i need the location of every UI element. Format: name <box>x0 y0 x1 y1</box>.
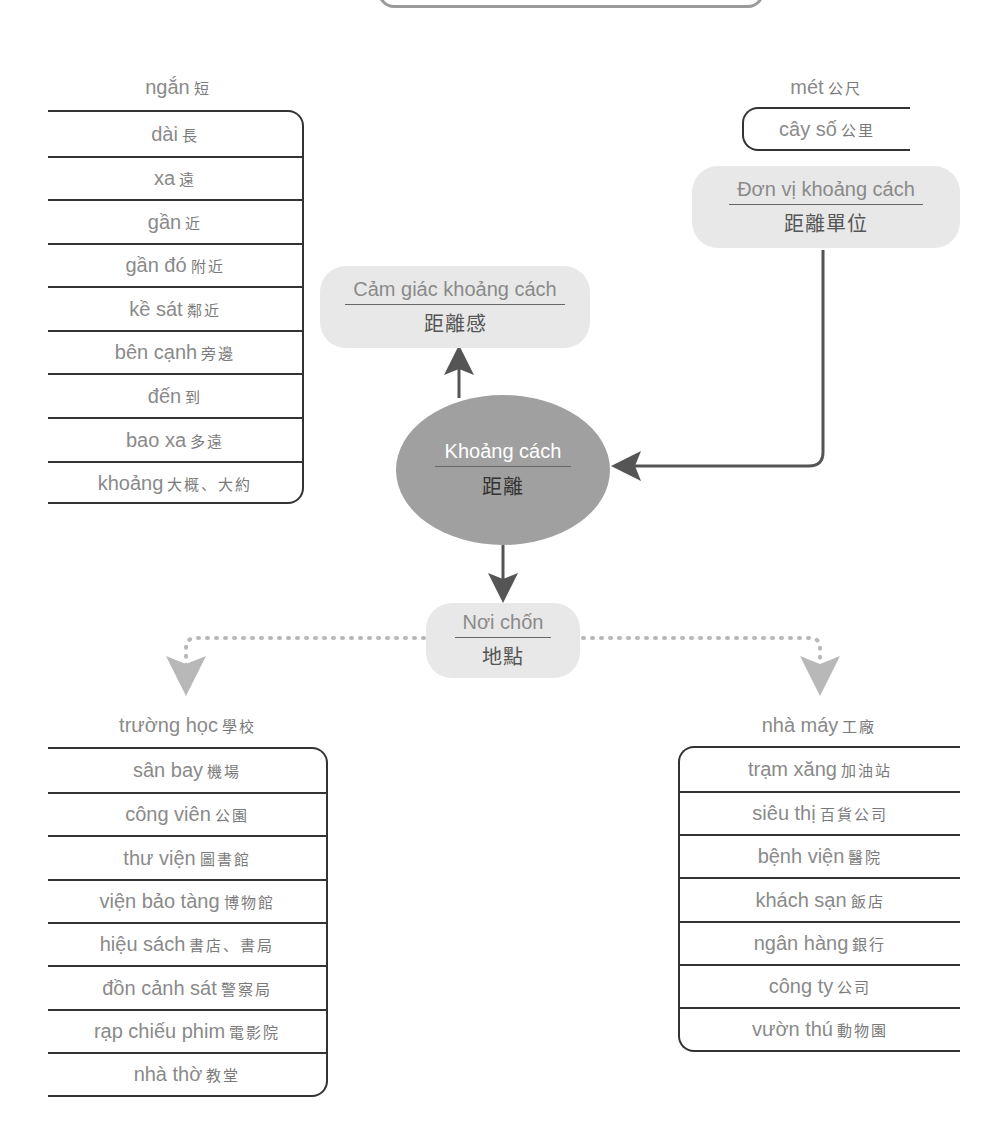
row-vi: hiệu sách <box>100 933 186 956</box>
node-vi: Cảm giác khoảng cách <box>345 278 564 305</box>
row-zh: 教堂 <box>206 1064 240 1085</box>
table-row: bệnh viện醫院 <box>680 834 960 877</box>
row-zh: 近 <box>185 212 202 233</box>
row-vi: dài <box>151 123 178 146</box>
node-vi: Nơi chốn <box>455 611 552 638</box>
header-zh: 學校 <box>222 718 256 736</box>
row-vi: nhà thờ <box>134 1063 203 1086</box>
place-node: Nơi chốn 地點 <box>426 603 580 678</box>
table-row: rạp chiếu phim電影院 <box>48 1009 326 1052</box>
table-row: thư viện圖書館 <box>48 835 326 879</box>
node-vi: Đơn vị khoảng cách <box>729 178 923 205</box>
row-vi: gần <box>148 211 181 234</box>
row-zh: 多遠 <box>190 430 224 451</box>
unit-header: mét公尺 <box>742 76 910 99</box>
table-row: trạm xăng加油站 <box>680 748 960 791</box>
row-zh: 長 <box>182 124 199 145</box>
row-vi: bệnh viện <box>758 845 845 868</box>
row-zh: 公司 <box>837 976 871 997</box>
row-zh: 加油站 <box>841 759 892 780</box>
row-zh: 遠 <box>179 168 196 189</box>
table-row: bên cạnh旁邊 <box>48 330 302 373</box>
places-left-header: trường học學校 <box>48 714 327 737</box>
node-zh: 距離感 <box>424 305 487 337</box>
header-vi: mét <box>790 76 823 98</box>
unit-node: Đơn vị khoảng cách 距離單位 <box>692 166 960 248</box>
distance-header: ngắn短 <box>48 76 308 99</box>
table-row: viện bảo tàng博物館 <box>48 879 326 922</box>
table-row: đến到 <box>48 373 302 417</box>
dotted-arrow-right <box>583 638 820 676</box>
table-row: công ty公司 <box>680 964 960 1007</box>
row-vi: trạm xăng <box>748 758 837 781</box>
header-zh: 工廠 <box>842 718 876 736</box>
row-vi: đến <box>148 385 181 408</box>
header-vi: nhà máy <box>762 714 839 736</box>
table-row: gần近 <box>48 199 302 243</box>
header-zh: 短 <box>194 80 211 98</box>
center-node: Khoảng cách 距離 <box>396 395 610 545</box>
row-zh: 電影院 <box>229 1021 280 1042</box>
row-zh: 圖書館 <box>200 848 251 869</box>
table-row: hiệu sách書店、書局 <box>48 922 326 965</box>
table-row: khoảng大概、大約 <box>48 461 302 504</box>
row-zh: 鄰近 <box>187 299 221 320</box>
table-row: bao xa多遠 <box>48 417 302 461</box>
table-row: công viên公園 <box>48 792 326 835</box>
row-vi: công ty <box>769 975 833 998</box>
row-zh: 大概、大約 <box>167 473 252 494</box>
places-right-table: trạm xăng加油站 siêu thị百貨公司 bệnh viện醫院 kh… <box>678 746 960 1052</box>
row-vi: bên cạnh <box>115 341 197 364</box>
node-zh: 地點 <box>482 638 524 670</box>
arrow-from-unit <box>626 250 823 466</box>
row-vi: siêu thị <box>752 802 815 825</box>
table-row: dài長 <box>48 112 302 156</box>
node-zh: 距離單位 <box>784 205 868 237</box>
table-row: cây số公里 <box>744 109 910 149</box>
row-zh: 銀行 <box>852 933 886 954</box>
row-zh: 警察局 <box>221 978 272 999</box>
row-vi: khách sạn <box>755 889 846 912</box>
row-vi: viện bảo tàng <box>99 890 219 913</box>
row-vi: khoảng <box>98 472 164 495</box>
row-zh: 動物園 <box>837 1019 888 1040</box>
table-row: xa遠 <box>48 156 302 199</box>
row-vi: cây số <box>779 118 837 141</box>
row-vi: bao xa <box>126 429 186 452</box>
row-zh: 飯店 <box>851 890 885 911</box>
table-row: sân bay機場 <box>48 749 326 792</box>
places-left-table: sân bay機場 công viên公園 thư viện圖書館 viện b… <box>48 747 328 1097</box>
title-box-bottom-edge <box>378 0 764 8</box>
table-row: ngân hàng銀行 <box>680 921 960 964</box>
row-zh: 附近 <box>191 255 225 276</box>
dotted-arrow-left <box>186 638 424 676</box>
row-vi: thư viện <box>123 847 195 870</box>
row-zh: 醫院 <box>848 846 882 867</box>
row-vi: vườn thú <box>752 1018 833 1041</box>
row-zh: 公里 <box>841 119 875 140</box>
table-row: nhà thờ教堂 <box>48 1052 326 1095</box>
row-zh: 旁邊 <box>201 342 235 363</box>
row-vi: xa <box>154 167 175 190</box>
unit-words-table: cây số公里 <box>742 107 910 151</box>
row-vi: gần đó <box>125 254 186 277</box>
row-vi: sân bay <box>133 759 203 782</box>
table-row: vườn thú動物園 <box>680 1007 960 1050</box>
table-row: gần đó附近 <box>48 243 302 286</box>
row-zh: 到 <box>185 386 202 407</box>
header-vi: trường học <box>119 714 218 736</box>
table-row: kề sát鄰近 <box>48 286 302 330</box>
table-row: đồn cảnh sát警察局 <box>48 965 326 1009</box>
center-vi: Khoảng cách <box>435 440 572 467</box>
row-vi: rạp chiếu phim <box>94 1020 225 1043</box>
row-zh: 百貨公司 <box>820 803 888 824</box>
row-zh: 公園 <box>215 804 249 825</box>
distance-words-table: dài長 xa遠 gần近 gần đó附近 kề sát鄰近 bên cạnh… <box>48 110 304 504</box>
table-row: siêu thị百貨公司 <box>680 791 960 834</box>
header-vi: ngắn <box>145 76 190 98</box>
feeling-node: Cảm giác khoảng cách 距離感 <box>320 266 590 348</box>
row-vi: ngân hàng <box>754 932 849 955</box>
center-zh: 距離 <box>482 467 524 500</box>
places-right-header: nhà máy工廠 <box>678 714 960 737</box>
row-vi: đồn cảnh sát <box>102 977 217 1000</box>
